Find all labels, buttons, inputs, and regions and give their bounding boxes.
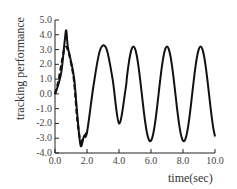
y-tick-label: 5.0 [40,14,53,25]
x-axis-label: time(sec) [168,171,213,185]
y-tick-label: 4.0 [40,29,53,40]
x-tick-label: 8.0 [177,155,190,166]
x-tick-label: 2.0 [81,155,94,166]
solid-series-line [55,30,215,146]
y-tick-label: -3.0 [36,132,52,143]
y-axis-label: tracking performance [13,17,27,120]
y-tick-label: 1.0 [40,73,53,84]
x-tick-label: 6.0 [145,155,158,166]
y-tick-label: -2.0 [36,117,52,128]
x-tick-label: 10.0 [206,155,224,166]
y-tick-label: 2.0 [40,58,53,69]
x-tick-label: 4.0 [113,155,126,166]
y-tick-label: -1.0 [36,103,52,114]
line-chart: 5.04.03.02.01.00.0-1.0-2.0-3.0-4.00.02.0… [0,0,237,189]
y-tick-label: 3.0 [40,44,53,55]
x-tick-label: 0.0 [49,155,62,166]
y-tick-label: 0.0 [40,88,53,99]
